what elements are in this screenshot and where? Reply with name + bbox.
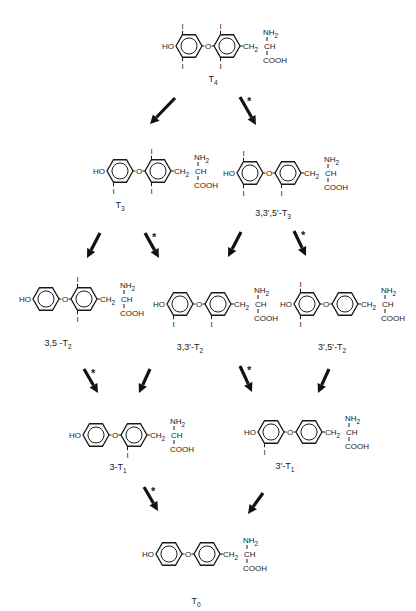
arrow-shaft	[232, 232, 241, 249]
iodine-label: I	[76, 315, 78, 324]
alpha-carbon-label: CH	[382, 300, 394, 309]
amine-label: NH2	[194, 153, 210, 164]
phenolic-ring	[294, 293, 320, 316]
methylene-label: CH2	[243, 42, 259, 53]
iodine-label: I	[219, 62, 221, 71]
reaction-arrow-t3-to-35t2	[87, 233, 100, 258]
iodine-label: I	[219, 22, 221, 31]
tyrosyl-ring	[296, 421, 322, 444]
phenolic-ring	[167, 293, 193, 316]
compound-name-t3: T3	[115, 200, 125, 212]
methylene-label: CH2	[150, 431, 166, 442]
phenolic-ring	[107, 160, 133, 183]
amine-label: NH2	[243, 536, 259, 547]
tyrosyl-ring	[194, 543, 220, 566]
compound-name-t0: T0	[191, 596, 201, 608]
ether-oxygen-label: O	[323, 300, 329, 309]
iodine-label: I	[210, 320, 212, 329]
alpha-carbon-label: CH	[244, 550, 256, 559]
carboxyl-label: COOH	[381, 314, 405, 323]
iodine-label: I	[181, 62, 183, 71]
amine-label: NH2	[170, 417, 186, 428]
ether-oxygen-label: O	[62, 295, 68, 304]
phenolic-ring	[237, 162, 263, 185]
hydroxyl-label: HO	[93, 167, 105, 176]
arrow-shaft	[322, 369, 329, 385]
tyrosyl-ring	[214, 35, 240, 58]
compound-3pt1: OHOICH2CHNH2COOH	[244, 414, 369, 457]
alpha-carbon-label: CH	[255, 300, 267, 309]
methylene-label: CH2	[325, 428, 341, 439]
iodine-label: I	[280, 189, 282, 198]
compound-name-rt3: 3,3',5'-T3	[255, 208, 291, 220]
phenolic-ring	[83, 424, 109, 447]
compound-rt3: OHOIIICH2CHNH2COOH	[223, 149, 348, 199]
iodine-label: I	[112, 187, 114, 196]
amine-label: NH2	[254, 286, 270, 297]
reaction-arrow-3p5pt2-to-3pt1	[318, 369, 329, 393]
reaction-arrow-3pt1-to-t0	[248, 493, 263, 514]
iodine-label: I	[299, 280, 301, 289]
tyrosyl-ring	[205, 293, 231, 316]
arrow-shaft	[91, 233, 100, 250]
hydroxyl-label: HO	[19, 295, 31, 304]
reaction-arrow-35t2-to-3t1: *	[84, 367, 98, 393]
arrow-shaft	[143, 369, 150, 385]
methylene-label: CH2	[304, 169, 320, 180]
reaction-arrow-rt3-to-33t2	[228, 232, 241, 257]
hydroxyl-label: HO	[142, 550, 154, 559]
reaction-arrow-33t2-to-3pt1: *	[240, 364, 252, 392]
star-marker: *	[151, 485, 156, 497]
compound-33t2: OHOIICH2CHNH2COOH	[153, 286, 278, 329]
carboxyl-label: COOH	[120, 309, 144, 318]
carboxyl-label: COOH	[254, 314, 278, 323]
methylene-label: CH2	[100, 295, 116, 306]
amine-label: NH2	[263, 28, 279, 39]
amine-label: NH2	[345, 414, 361, 425]
ether-oxygen-label: O	[112, 431, 118, 440]
alpha-carbon-label: CH	[195, 167, 207, 176]
alpha-carbon-label: CH	[171, 431, 183, 440]
ether-oxygen-label: O	[287, 428, 293, 437]
amine-label: NH2	[120, 281, 136, 292]
ether-oxygen-label: O	[185, 550, 191, 559]
arrow-shaft	[156, 98, 175, 118]
compound-name-35t2: 3,5 -T2	[44, 338, 72, 350]
arrow-shaft	[253, 493, 263, 507]
hydroxyl-label: HO	[69, 431, 81, 440]
iodine-label: I	[172, 320, 174, 329]
methylene-label: CH2	[361, 300, 377, 311]
carboxyl-label: COOH	[345, 442, 369, 451]
compound-name-33t2: 3,3'-T2	[177, 342, 204, 354]
tyrosyl-ring	[332, 293, 358, 316]
iodine-label: I	[299, 320, 301, 329]
compound-name-3t1: 3-T1	[109, 462, 127, 474]
reaction-arrow-rt3-to-3p5pt2: *	[294, 229, 306, 256]
iodine-label: I	[126, 451, 128, 460]
tyrosyl-ring	[71, 288, 97, 311]
reaction-arrow-t4-to-rt3: *	[240, 95, 256, 125]
tyrosyl-ring	[121, 424, 147, 447]
hydroxyl-label: HO	[223, 169, 235, 178]
star-marker: *	[301, 229, 306, 241]
reaction-arrow-33t2-to-3t1	[139, 369, 150, 393]
phenolic-ring	[258, 421, 284, 444]
alpha-carbon-label: CH	[346, 428, 358, 437]
deiodination-diagram: OHOIIIICH2CHNH2COOHT4OHOIIICH2CHNH2COOHT…	[0, 0, 416, 611]
iodine-label: I	[150, 187, 152, 196]
phenolic-ring	[33, 288, 59, 311]
hydroxyl-label: HO	[153, 300, 165, 309]
iodine-label: I	[150, 147, 152, 156]
iodine-label: I	[242, 149, 244, 158]
methylene-label: CH2	[174, 167, 190, 178]
carboxyl-label: COOH	[170, 445, 194, 454]
carboxyl-label: COOH	[263, 56, 287, 65]
reaction-arrow-t4-to-t3	[150, 98, 175, 124]
carboxyl-label: COOH	[243, 564, 267, 573]
compound-name-t4: T4	[208, 74, 218, 86]
star-marker: *	[152, 231, 157, 243]
alpha-carbon-label: CH	[121, 295, 133, 304]
phenolic-ring	[156, 543, 182, 566]
iodine-label: I	[76, 275, 78, 284]
compound-35t2: OHOIICH2CHNH2COOH	[19, 275, 144, 325]
